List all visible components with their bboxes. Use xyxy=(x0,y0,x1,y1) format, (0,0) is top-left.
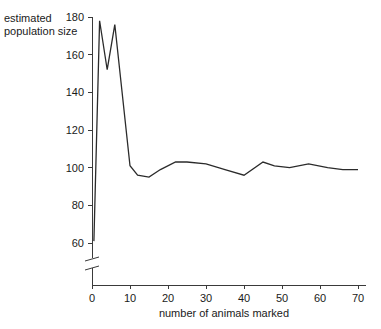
y-axis-ticks: 6080100120140160180 xyxy=(66,11,92,249)
x-tick-label: 10 xyxy=(124,292,136,304)
x-tick-label: 70 xyxy=(352,292,364,304)
x-tick-label: 20 xyxy=(162,292,174,304)
line-chart-plot: 6080100120140160180 010203040506070 numb… xyxy=(0,0,381,329)
y-tick-label: 140 xyxy=(66,86,84,98)
x-tick-label: 40 xyxy=(238,292,250,304)
x-tick-label: 30 xyxy=(200,292,212,304)
x-tick-label: 0 xyxy=(89,292,95,304)
y-tick-label: 60 xyxy=(72,237,84,249)
data-series-line xyxy=(94,21,358,241)
x-tick-label: 60 xyxy=(314,292,326,304)
y-tick-label: 180 xyxy=(66,11,84,23)
x-tick-label: 50 xyxy=(276,292,288,304)
y-tick-label: 100 xyxy=(66,162,84,174)
x-axis-title: number of animals marked xyxy=(159,307,289,319)
y-axis-break-icon xyxy=(85,257,99,270)
chart-container: estimated population size 60801001201401… xyxy=(0,0,381,329)
y-tick-label: 160 xyxy=(66,49,84,61)
x-axis-ticks: 010203040506070 xyxy=(89,285,364,304)
y-tick-label: 80 xyxy=(72,199,84,211)
y-tick-label: 120 xyxy=(66,124,84,136)
